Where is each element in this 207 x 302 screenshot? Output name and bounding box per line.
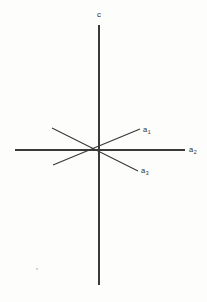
axes-drawing <box>0 0 207 302</box>
axis-label-a2-letter: a <box>189 145 193 154</box>
axis-label-c-text: c <box>97 10 101 19</box>
axis-label-a3: a3 <box>141 167 148 175</box>
crystallographic-axes-figure: c a2 a1 a3 <box>0 0 207 302</box>
axis-label-a2-subscript: 2 <box>194 149 197 155</box>
axis-label-a1-letter: a <box>143 125 147 134</box>
axis-label-a3-letter: a <box>141 166 145 175</box>
scan-artifact-speck <box>36 268 38 270</box>
axis-label-a1: a1 <box>143 126 150 134</box>
axis-label-a2: a2 <box>189 146 196 154</box>
axis-label-a1-subscript: 1 <box>148 129 151 135</box>
axis-label-c: c <box>97 11 101 19</box>
axis-label-a3-subscript: 3 <box>146 170 149 176</box>
